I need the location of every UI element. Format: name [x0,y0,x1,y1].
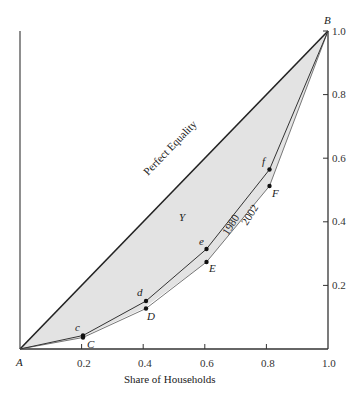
y-tick-0.4: 0.4 [332,215,346,227]
point-e [204,247,208,251]
label-perfect-equality: Perfect Equality [141,118,199,178]
label-D: D [146,310,155,322]
label-A: A [15,356,23,368]
y-tick-0.8: 0.8 [332,88,346,100]
label-E: E [208,262,216,274]
label-c: c [75,321,80,333]
y-ticks [323,31,328,285]
point-f [267,167,271,171]
x-tick-1.0: 1.0 [322,357,336,369]
perfect-equality-line [20,31,328,349]
y-tick-0.2: 0.2 [332,279,346,291]
label-C: C [87,338,95,350]
x-tick-0.4: 0.4 [138,357,152,369]
x-ticks [82,344,267,349]
lorenz-curve-chart: c C d D e E f F A B Y Perfect Equality 1… [0,0,364,397]
x-axis-title: Share of Households [124,373,216,385]
y-tick-0.6: 0.6 [332,152,346,164]
label-d: d [137,286,143,298]
label-F: F [271,187,279,199]
x-tick-0.6: 0.6 [200,357,214,369]
point-C [81,335,85,339]
label-e: e [199,235,204,247]
x-tick-0.2: 0.2 [77,357,91,369]
label-B: B [324,14,331,26]
y-tick-1.0: 1.0 [332,25,346,37]
point-d [144,299,148,303]
x-tick-0.8: 0.8 [261,357,275,369]
